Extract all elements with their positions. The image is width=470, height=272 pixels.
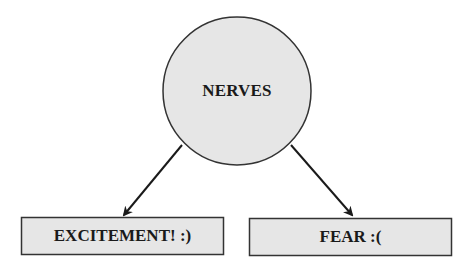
- nerves-label: NERVES: [163, 17, 311, 165]
- fear-label: FEAR :(: [249, 218, 452, 256]
- excitement-label: EXCITEMENT! :): [21, 217, 224, 255]
